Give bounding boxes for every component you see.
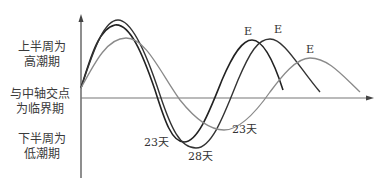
biorhythm-diagram: E E E 23天 28天 23天 — [0, 0, 386, 193]
peak-label-23: E — [244, 25, 252, 38]
x-axis-arrow-icon — [366, 96, 374, 101]
peak-label-28: E — [274, 23, 282, 36]
peak-label-33: E — [306, 43, 314, 56]
y-axis-arrow-icon — [79, 14, 84, 22]
trough-label-23: 23天 — [144, 136, 169, 149]
trough-label-28: 28天 — [188, 150, 213, 163]
trough-label-33: 23天 — [232, 123, 257, 136]
